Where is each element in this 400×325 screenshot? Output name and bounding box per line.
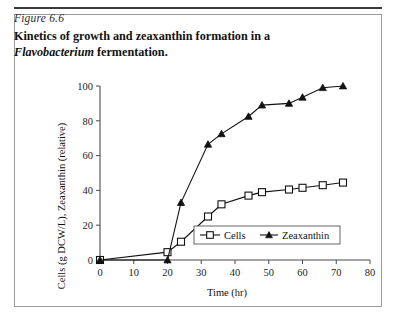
y-axis-ticks: 020406080100 — [77, 81, 100, 266]
x-tick-label: 70 — [331, 267, 342, 278]
x-tick-label: 30 — [196, 267, 207, 278]
data-point-cells — [340, 179, 347, 186]
x-tick-label: 20 — [162, 267, 173, 278]
figure-title-line2-tail: fermentation. — [94, 45, 168, 59]
figure-number: Figure 6.6 — [14, 12, 344, 24]
data-point-cells — [299, 184, 306, 191]
y-tick-label: 40 — [83, 185, 94, 196]
chart-legend: CellsZeaxanthin — [194, 226, 340, 244]
x-tick-label: 0 — [97, 267, 102, 278]
data-point-zeaxanthin — [218, 130, 225, 136]
x-tick-label: 10 — [129, 267, 140, 278]
legend-label-zeaxanthin: Zeaxanthin — [282, 230, 330, 241]
legend-marker-cells — [207, 232, 214, 239]
figure-caption: Figure 6.6 Kinetics of growth and zeaxan… — [14, 12, 344, 60]
chart-plot-area: Cells (g DCW/L), Zeaxanthin (relative) 0… — [52, 74, 382, 304]
x-tick-label: 50 — [264, 267, 275, 278]
data-point-cells — [286, 186, 293, 193]
figure-title-genus: Flavobacterium — [14, 45, 94, 59]
x-tick-label: 80 — [365, 267, 376, 278]
series-line-cells — [100, 183, 343, 260]
data-point-zeaxanthin — [339, 82, 346, 88]
data-point-cells — [205, 213, 212, 220]
data-point-cells — [218, 201, 225, 208]
x-axis-title-text: Time (hr) — [207, 287, 248, 299]
top-rule — [14, 7, 382, 9]
data-point-cells — [259, 189, 266, 196]
data-point-cells — [178, 238, 185, 245]
x-tick-label: 60 — [297, 267, 308, 278]
x-tick-label: 40 — [230, 267, 241, 278]
figure-title: Kinetics of growth and zeaxanthin format… — [14, 29, 344, 60]
y-tick-label: 100 — [77, 81, 93, 92]
y-tick-label: 0 — [88, 255, 93, 266]
data-point-cells — [319, 182, 326, 189]
data-point-zeaxanthin — [299, 94, 306, 100]
y-tick-label: 80 — [83, 116, 94, 127]
y-tick-label: 60 — [83, 150, 94, 161]
y-axis-title-text: Cells (g DCW/L), Zeaxanthin (relative) — [56, 122, 68, 289]
chart-svg: Cells (g DCW/L), Zeaxanthin (relative) 0… — [52, 74, 382, 304]
legend-label-cells: Cells — [224, 230, 246, 241]
y-axis-title: Cells (g DCW/L), Zeaxanthin (relative) — [56, 122, 68, 289]
data-point-zeaxanthin — [177, 199, 184, 205]
data-point-cells — [245, 192, 252, 199]
y-tick-label: 20 — [83, 220, 94, 231]
figure-title-line1: Kinetics of growth and zeaxanthin format… — [14, 29, 270, 43]
x-axis-ticks: 01020304050607080 — [97, 260, 375, 278]
